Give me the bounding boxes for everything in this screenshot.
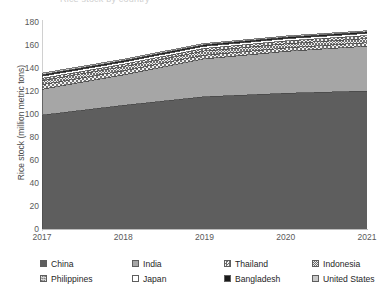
legend-item-label: China — [51, 259, 73, 269]
stacked-area-svg — [42, 22, 367, 229]
legend-item-label: Philippines — [51, 274, 93, 284]
legend-swatch-icon — [224, 260, 231, 267]
legend-swatch-icon — [132, 260, 139, 267]
legend-item-label: Thailand — [235, 259, 268, 269]
legend-item-thailand[interactable]: Thailand — [224, 256, 312, 271]
y-axis-tick-label: 180 — [3, 18, 39, 27]
legend-item-japan[interactable]: Japan — [132, 271, 224, 286]
legend-swatch-icon — [312, 275, 319, 282]
y-axis-ticks: 180160140120100806040200 — [0, 0, 39, 293]
legend-item-bangladesh[interactable]: Bangladesh — [224, 271, 312, 286]
legend-swatch-icon — [312, 260, 319, 267]
area-series-china — [42, 91, 367, 229]
y-axis-tick-label: 160 — [3, 41, 39, 50]
legend-item-philippines[interactable]: Philippines — [40, 271, 132, 286]
legend-swatch-icon — [132, 275, 139, 282]
rice-stock-stacked-area-chart: Rice stock by country Rice stock (millio… — [0, 0, 379, 293]
legend-item-indonesia[interactable]: Indonesia — [312, 256, 379, 271]
legend-swatch-icon — [40, 275, 47, 282]
y-axis-tick-label: 80 — [3, 133, 39, 142]
x-axis-tick-label: 2018 — [103, 233, 143, 242]
x-axis-tick-label: 2020 — [266, 233, 306, 242]
y-axis-tick-label: 60 — [3, 156, 39, 165]
x-axis-line — [42, 229, 368, 230]
legend-item-china[interactable]: China — [40, 256, 132, 271]
legend-item-india[interactable]: India — [132, 256, 224, 271]
legend-item-label: United States — [323, 274, 375, 284]
legend-item-label: India — [143, 259, 162, 269]
x-axis-tick-label: 2021 — [347, 233, 379, 242]
y-axis-tick-label: 40 — [3, 179, 39, 188]
y-axis-tick-label: 120 — [3, 87, 39, 96]
chart-legend: ChinaIndiaThailandIndonesiaPhilippinesJa… — [40, 256, 379, 288]
x-axis-tick-label: 2017 — [22, 233, 62, 242]
legend-item-label: Japan — [143, 274, 166, 284]
legend-item-label: Indonesia — [323, 259, 360, 269]
y-axis-tick-label: 20 — [3, 202, 39, 211]
legend-item-united-states[interactable]: United States — [312, 271, 379, 286]
legend-item-label: Bangladesh — [235, 274, 280, 284]
x-axis-tick-label: 2019 — [185, 233, 225, 242]
legend-swatch-icon — [224, 275, 231, 282]
y-axis-tick-label: 140 — [3, 64, 39, 73]
chart-title-cropped: Rice stock by country — [60, 0, 300, 4]
plot-area — [42, 22, 367, 229]
legend-swatch-icon — [40, 260, 47, 267]
y-axis-tick-label: 100 — [3, 110, 39, 119]
